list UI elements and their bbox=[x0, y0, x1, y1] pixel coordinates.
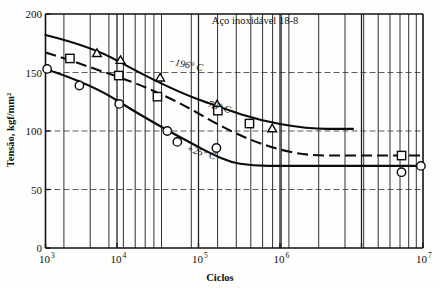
figure-container: 200 150 100 50 0 10 3 10 4 10 5 10 6 bbox=[0, 0, 440, 289]
horizontal-gridlines bbox=[46, 73, 424, 190]
series-minus196: −196° C bbox=[46, 35, 354, 132]
y-tick-150: 150 bbox=[26, 67, 43, 79]
data-point-circle bbox=[417, 162, 425, 170]
data-point-circle bbox=[163, 127, 171, 135]
data-point-square bbox=[245, 119, 253, 127]
data-point-circle bbox=[173, 138, 181, 146]
x-tick-1e6-exp: 6 bbox=[286, 251, 290, 260]
x-tick-1e3-exp: 3 bbox=[51, 251, 55, 260]
data-point-triangle bbox=[156, 73, 165, 81]
fatigue-sn-chart: 200 150 100 50 0 10 3 10 4 10 5 10 6 bbox=[0, 0, 440, 289]
data-point-circle bbox=[397, 168, 405, 176]
x-tick-1e4-base: 10 bbox=[111, 253, 123, 265]
x-tick-1e7: 10 7 bbox=[416, 251, 432, 265]
x-tick-labels: 10 3 10 4 10 5 10 6 10 7 bbox=[39, 251, 432, 265]
data-point-circle bbox=[75, 81, 83, 89]
x-tick-1e4-exp: 4 bbox=[123, 251, 127, 260]
series-minus78-curve bbox=[46, 52, 424, 155]
series-minus78: −78° C bbox=[46, 52, 424, 159]
chart-title: Aço inoxidável 18-8 bbox=[212, 15, 298, 26]
data-point-square bbox=[115, 71, 123, 79]
x-tick-1e7-exp: 7 bbox=[428, 251, 432, 260]
x-tick-1e7-base: 10 bbox=[416, 253, 428, 265]
series-plus25: +25° C bbox=[43, 65, 425, 177]
data-point-circle bbox=[115, 100, 123, 108]
data-point-triangle bbox=[268, 124, 277, 132]
x-tick-1e6: 10 6 bbox=[274, 251, 290, 265]
y-tick-labels: 200 150 100 50 0 bbox=[26, 8, 43, 254]
x-tick-1e4: 10 4 bbox=[111, 251, 127, 265]
series-plus25-markers bbox=[43, 65, 425, 177]
data-point-square bbox=[397, 151, 405, 159]
y-axis-title: Tensão, kgf/mm² bbox=[5, 93, 16, 168]
x-tick-1e6-base: 10 bbox=[274, 253, 286, 265]
x-tick-1e5-base: 10 bbox=[192, 253, 204, 265]
data-point-square bbox=[66, 54, 74, 62]
y-tick-50: 50 bbox=[31, 184, 43, 196]
x-axis-title: Ciclos bbox=[206, 272, 233, 283]
data-point-square bbox=[153, 93, 161, 101]
y-tick-100: 100 bbox=[26, 125, 43, 137]
x-tick-1e5: 10 5 bbox=[192, 251, 208, 265]
x-tick-1e5-exp: 5 bbox=[204, 251, 208, 260]
data-point-circle bbox=[43, 65, 51, 73]
series-plus25-curve bbox=[46, 69, 424, 166]
x-tick-1e3: 10 3 bbox=[39, 251, 55, 265]
y-tick-200: 200 bbox=[26, 8, 43, 20]
x-tick-1e3-base: 10 bbox=[39, 253, 51, 265]
